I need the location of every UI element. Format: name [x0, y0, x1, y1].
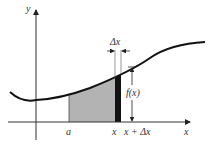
fx-label: f(x) — [126, 87, 141, 99]
x-axis-label: x — [183, 126, 189, 137]
tick-x: x — [111, 126, 117, 137]
y-axis-label: y — [25, 3, 31, 14]
tick-a: a — [66, 126, 71, 137]
tick-x-plus-dx: x + Δx — [123, 126, 151, 137]
delta-x-strip — [115, 74, 121, 122]
shaded-area — [69, 78, 115, 122]
area-diagram: y x a x x + Δx f(x) Δx — [0, 0, 212, 150]
dx-label: Δx — [109, 36, 121, 47]
